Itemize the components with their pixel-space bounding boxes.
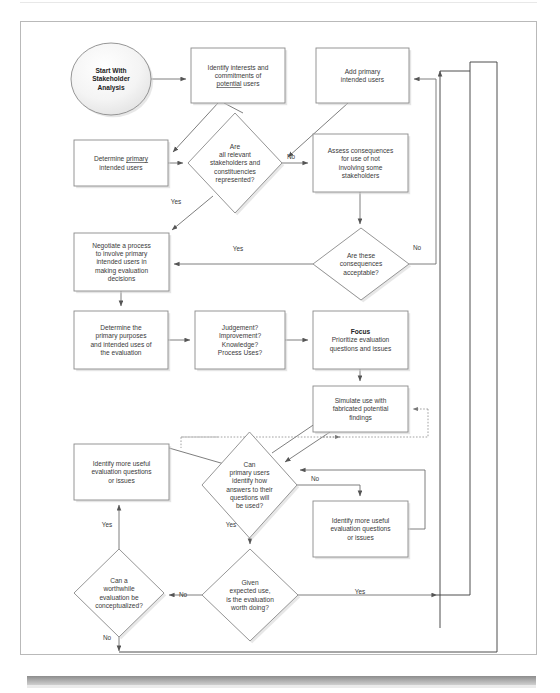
node-label-line: be used? bbox=[236, 502, 263, 509]
node-simulate: Simulate use withfabricated potentialfin… bbox=[313, 386, 410, 434]
node-dec_worthwhile: Can aworthwhileevaluation beconceptualiz… bbox=[74, 549, 166, 639]
node-label-line: for use of not bbox=[341, 155, 380, 162]
node-label-line: Negotiate a process bbox=[92, 242, 151, 250]
node-label-line: intended users bbox=[99, 164, 143, 171]
edge-label-no-given-use: No bbox=[179, 591, 188, 598]
node-label-line: Determine primary bbox=[94, 155, 149, 163]
edge-dec2-no-loop bbox=[409, 79, 436, 264]
node-judgement_list: Judgement?Improvement?Knowledge?Process … bbox=[195, 311, 287, 371]
edge-label-no-worthwhile-down: No bbox=[103, 634, 112, 641]
node-label-line: Identify more useful bbox=[93, 460, 151, 468]
flowchart-svg: Start WithStakeholderAnalysisIdentify in… bbox=[0, 0, 560, 693]
node-label-line: Stakeholder bbox=[92, 75, 130, 82]
node-label-line: to involve primary bbox=[96, 250, 148, 258]
node-label-line: intended users bbox=[341, 76, 385, 83]
edge-right-rail-top bbox=[470, 62, 497, 595]
node-dec_can_primary: Canprimary usersidentify howanswers to t… bbox=[202, 432, 299, 540]
node-label-line: conceptualized? bbox=[95, 602, 143, 610]
node-label-line: all relevant bbox=[219, 151, 251, 158]
node-identify_interests: Identify interests andcommitments ofpote… bbox=[191, 48, 287, 105]
node-label-line: primary users bbox=[230, 469, 271, 477]
node-label-line: Identify more useful bbox=[332, 517, 390, 525]
node-label-line: Simulate use with bbox=[335, 397, 387, 404]
node-label-line: expected use, bbox=[229, 587, 270, 595]
node-label-line: Can bbox=[243, 461, 255, 468]
node-label-line: fabricated potential bbox=[333, 405, 389, 413]
node-label-line: involving some bbox=[339, 164, 383, 172]
node-label-line: Focus bbox=[351, 328, 371, 335]
node-identify_more_right: Identify more usefulevaluation questions… bbox=[313, 501, 410, 559]
node-label-line: intended users in bbox=[96, 258, 147, 265]
edge-label-yes-can-primary-down: Yes bbox=[226, 521, 236, 528]
node-label-line: Can a bbox=[110, 577, 128, 584]
node-label-line: worthwhile bbox=[102, 585, 134, 592]
node-label-line: or issues bbox=[347, 534, 374, 541]
edge-label-yes-given-use: Yes bbox=[355, 588, 365, 595]
node-label-line: questions and issues bbox=[330, 345, 392, 353]
node-label-line: Start With bbox=[95, 67, 126, 74]
node-label-line: potential users bbox=[217, 80, 261, 88]
node-assess_consequences: Assess consequencesfor use of notinvolvi… bbox=[313, 134, 410, 194]
node-label-line: Knowledge? bbox=[222, 341, 259, 349]
node-label-line: identify how bbox=[232, 477, 267, 485]
node-label-line: Improvement? bbox=[219, 332, 261, 340]
node-label-line: or issues bbox=[108, 477, 135, 484]
edge-label-yes-worthwhile-up: Yes bbox=[102, 521, 112, 528]
node-dec_consequences_ok: Are theseconsequencesacceptable? bbox=[313, 228, 411, 302]
edge-label-yes-all-relevant: Yes bbox=[171, 198, 181, 205]
edge-dec3-no bbox=[297, 485, 360, 496]
edge-label-no-can-primary: No bbox=[311, 475, 320, 482]
node-label-line: consequences bbox=[340, 260, 383, 268]
node-negotiate: Negotiate a processto involve primaryint… bbox=[74, 233, 171, 293]
node-label-line: Prioritize evaluation bbox=[332, 336, 390, 343]
node-label-line: findings bbox=[349, 414, 372, 422]
node-label-line: Determine the bbox=[100, 324, 142, 331]
node-label-line: primary purposes bbox=[96, 332, 148, 340]
node-dec_all_relevant: Areall relevantstakeholders andconstitue… bbox=[188, 113, 284, 215]
node-label-line: Add primary bbox=[345, 68, 381, 76]
node-label-line: Analysis bbox=[97, 84, 124, 92]
node-label-line: Are these bbox=[347, 252, 376, 259]
node-label-line: Identify interests and bbox=[208, 64, 269, 72]
node-label-line: the evaluation bbox=[100, 349, 141, 356]
node-label-line: decisions bbox=[108, 275, 136, 282]
edge-layer bbox=[119, 62, 497, 652]
node-determine_primary: Determine primaryintended users bbox=[74, 140, 170, 188]
node-identify_more_left: Identify more usefulevaluation questions… bbox=[74, 444, 171, 502]
node-label-line: represented? bbox=[216, 176, 255, 184]
node-focus: FocusPrioritize evaluationquestions and … bbox=[313, 311, 410, 371]
node-label-line: Process Uses? bbox=[218, 349, 263, 356]
node-label-line: acceptable? bbox=[343, 269, 379, 277]
edge-label-no-consequences: No bbox=[413, 244, 422, 251]
node-dec_given_use: Givenexpected use,is the evaluationworth… bbox=[202, 549, 300, 643]
node-add_primary: Add primaryintended users bbox=[316, 48, 411, 105]
node-label-line: stakeholders bbox=[342, 172, 380, 179]
node-label-line: is the evaluation bbox=[226, 596, 274, 603]
node-label-line: Assess consequences bbox=[328, 147, 394, 155]
edge-label-no-all-relevant: No bbox=[287, 153, 296, 160]
node-label-line: evaluation be bbox=[99, 594, 139, 601]
node-determine_purposes: Determine theprimary purposesand intende… bbox=[74, 311, 170, 371]
node-label-line: answers to their bbox=[226, 486, 273, 493]
node-label-line: questions will bbox=[230, 494, 270, 502]
node-label-line: Judgement? bbox=[222, 324, 259, 332]
edge-simulate-to-dec3 bbox=[285, 432, 330, 462]
node-label-line: evaluation questions bbox=[330, 525, 391, 533]
page-bottom-bar bbox=[27, 676, 536, 685]
node-label-line: stakeholders and bbox=[210, 159, 261, 166]
node-label-line: constituencies bbox=[214, 168, 256, 175]
node-label-line: and intended uses of bbox=[90, 341, 151, 348]
edge-label-yes-consequences: Yes bbox=[233, 245, 243, 252]
node-label-line: evaluation questions bbox=[91, 468, 152, 476]
node-label-line: making evaluation bbox=[95, 267, 148, 275]
node-label-line: Given bbox=[241, 579, 259, 586]
node-label-line: commitments of bbox=[215, 72, 262, 79]
node-label-line: worth doing? bbox=[230, 604, 269, 612]
node-label-line: Are bbox=[230, 143, 241, 150]
node-layer: Start WithStakeholderAnalysisIdentify in… bbox=[71, 43, 411, 643]
node-start: Start WithStakeholderAnalysis bbox=[71, 43, 153, 117]
figure-canvas: Start WithStakeholderAnalysisIdentify in… bbox=[0, 0, 560, 693]
